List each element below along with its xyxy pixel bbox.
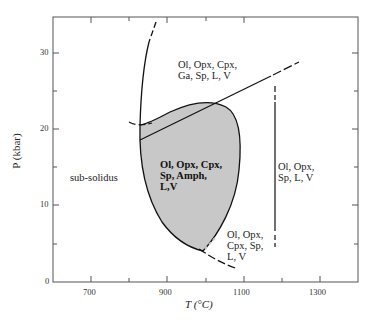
x-tick-1100: 1100 <box>233 287 250 297</box>
y-axis-title: P (kbar) <box>10 133 22 168</box>
label-amphibole-field: Ol, Opx, Cpx, Sp, Amph, L,V <box>160 159 222 192</box>
label-cpx-field: Ol, Opx, Cpx, Sp, L, V <box>227 229 263 262</box>
y-tick-10: 10 <box>40 199 49 209</box>
label-subsolidus: sub-solidus <box>70 172 118 183</box>
label-garnet-field: Ol, Opx, Cpx, Ga, Sp, L, V <box>178 59 237 81</box>
solidus-line <box>140 42 149 125</box>
x-tick-900: 900 <box>159 287 172 297</box>
y-tick-0: 0 <box>45 276 49 286</box>
y-tick-30: 30 <box>40 47 49 57</box>
solidus-dashed <box>149 22 156 42</box>
x-tick-700: 700 <box>83 287 96 297</box>
garnet-spinel-dashed <box>273 62 299 75</box>
x-tick-1300: 1300 <box>309 287 326 297</box>
x-axis-title: T (°C) <box>185 298 213 310</box>
label-spinel-field: Ol, Opx, Sp, L, V <box>278 161 314 183</box>
y-tick-20: 20 <box>40 123 49 133</box>
